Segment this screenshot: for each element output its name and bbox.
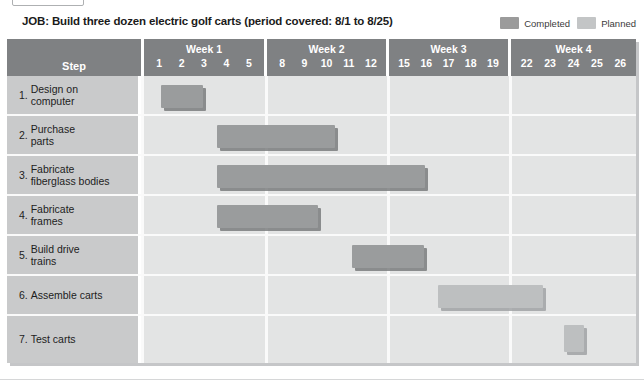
day-label: 26: [609, 56, 632, 71]
row-label-3: 3. Fabricate fiberglass bodies: [7, 156, 141, 194]
page-title: JOB: Build three dozen electric golf car…: [22, 15, 393, 27]
week-4-days: 22 23 24 25 26: [511, 56, 636, 71]
week-1-name: Week 1: [186, 42, 222, 56]
row-text-7: Test carts: [31, 333, 76, 346]
row-number-4: 4.: [19, 209, 28, 222]
day-label: 22: [515, 56, 538, 71]
week-3-days: 15 16 17 18 19: [389, 56, 508, 71]
row-number-5: 5.: [19, 249, 28, 262]
day-label: 1: [148, 56, 170, 71]
legend-item-completed: Completed: [500, 17, 570, 29]
row-label-6: 6. Assemble carts: [7, 276, 141, 314]
day-label: 11: [338, 56, 360, 71]
row-label-5: 5. Build drive trains: [7, 236, 141, 274]
legend-swatch-planned-icon: [577, 17, 596, 29]
gantt-bar-step-7[interactable]: [564, 325, 584, 352]
row-text-5: Build drive trains: [31, 243, 80, 268]
row-track-1: [144, 76, 636, 114]
row-text-3: Fabricate fiberglass bodies: [31, 163, 110, 188]
column-header-week-4: Week 4 22 23 24 25 26: [511, 39, 636, 76]
legend-label-completed: Completed: [524, 18, 570, 29]
legend-swatch-completed-icon: [500, 17, 519, 29]
day-label: 18: [460, 56, 482, 71]
row-text-2: Purchase parts: [31, 123, 75, 148]
day-label: 5: [238, 56, 260, 71]
row-text-4: Fabricate frames: [31, 203, 75, 228]
day-label: 9: [293, 56, 315, 71]
week-3-name: Week 3: [431, 42, 467, 56]
day-label: 16: [415, 56, 437, 71]
row-number-7: 7.: [19, 333, 28, 346]
table-row[interactable]: 5. Build drive trains: [7, 236, 636, 276]
day-label: 3: [193, 56, 215, 71]
table-row[interactable]: 7. Test carts: [7, 316, 636, 363]
page-bottom-rule: [0, 379, 644, 380]
gantt-bar-step-6[interactable]: [438, 285, 543, 308]
legend: Completed Planned: [500, 17, 636, 29]
row-label-1: 1. Design on computer: [7, 76, 141, 114]
row-number-2: 2.: [19, 129, 28, 142]
legend-label-planned: Planned: [601, 18, 636, 29]
day-label: 8: [271, 56, 293, 71]
table-body: 1. Design on computer 2. Purchase parts …: [7, 76, 636, 363]
row-label-2: 2. Purchase parts: [7, 116, 141, 154]
gantt-bar-step-2[interactable]: [217, 125, 335, 148]
row-track-7: [144, 316, 636, 363]
day-label: 17: [437, 56, 459, 71]
row-text-6: Assemble carts: [31, 289, 103, 302]
row-text-1: Design on computer: [31, 83, 78, 108]
gantt-bar-step-1[interactable]: [161, 85, 203, 108]
table-row[interactable]: 1. Design on computer: [7, 76, 636, 116]
week-2-name: Week 2: [309, 42, 345, 56]
table-row[interactable]: 4. Fabricate frames: [7, 196, 636, 236]
day-label: 10: [315, 56, 337, 71]
day-label: 4: [215, 56, 237, 71]
gantt-bar-step-4[interactable]: [217, 205, 318, 228]
row-track-6: [144, 276, 636, 314]
gantt-bar-step-3[interactable]: [217, 165, 425, 188]
day-label: 2: [170, 56, 192, 71]
column-header-week-1: Week 1 1 2 3 4 5: [144, 39, 267, 76]
day-label: 19: [482, 56, 504, 71]
legend-item-planned: Planned: [577, 17, 636, 29]
week-1-days: 1 2 3 4 5: [144, 56, 264, 71]
day-label: 23: [538, 56, 561, 71]
grid-divider-week-3: [509, 76, 512, 363]
grid-divider-step: [141, 76, 144, 363]
day-label: 15: [393, 56, 415, 71]
gantt-chart-page: JOB: Build three dozen electric golf car…: [0, 0, 644, 384]
row-number-1: 1.: [19, 89, 28, 102]
day-label: 24: [562, 56, 585, 71]
row-label-4: 4. Fabricate frames: [7, 196, 141, 234]
day-label: 25: [585, 56, 608, 71]
week-2-days: 8 9 10 11 12: [267, 56, 386, 71]
gantt-bar-step-5[interactable]: [352, 245, 424, 268]
row-label-7: 7. Test carts: [7, 316, 141, 363]
gantt-table: Step Week 1 1 2 3 4 5 Week 2 8 9 10 11: [7, 39, 636, 363]
column-header-step: Step: [7, 39, 144, 76]
row-number-6: 6.: [19, 289, 28, 302]
column-header-week-2: Week 2 8 9 10 11 12: [267, 39, 389, 76]
week-4-name: Week 4: [556, 42, 592, 56]
grid-divider-week-2: [387, 76, 390, 363]
day-label: 12: [360, 56, 382, 71]
column-header-week-3: Week 3 15 16 17 18 19: [389, 39, 511, 76]
row-number-3: 3.: [19, 169, 28, 182]
table-header-row: Step Week 1 1 2 3 4 5 Week 2 8 9 10 11: [7, 39, 636, 76]
cropped-toolbar-stub: [12, 0, 84, 6]
